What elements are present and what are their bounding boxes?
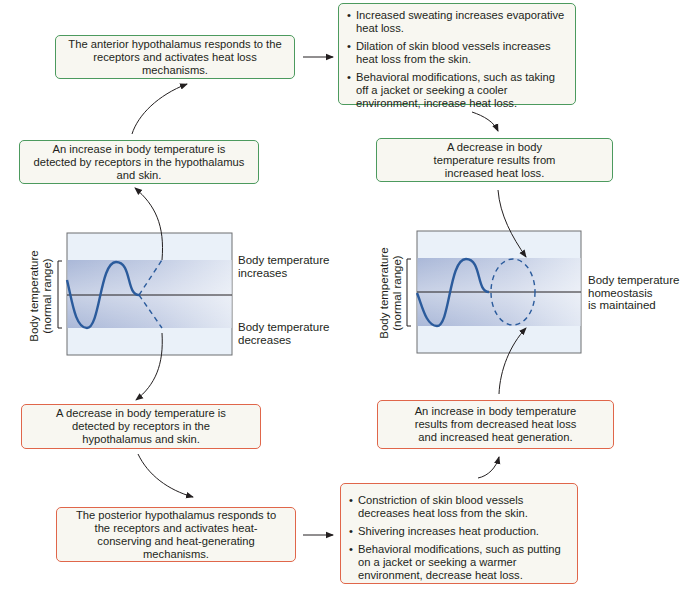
detect-decrease-box: A decrease in body temperature is detect… bbox=[21, 404, 261, 449]
flow-arrows bbox=[132, 57, 526, 535]
heat-loss-mechanisms-box: Increased sweating increases evaporative… bbox=[338, 3, 576, 105]
result-increase-box: An increase in body temperature results … bbox=[377, 400, 614, 449]
right-temperature-graph bbox=[407, 231, 581, 353]
detect-decrease-text: A decrease in body temperature is detect… bbox=[36, 407, 246, 446]
arrow-result-to-right-graph bbox=[499, 328, 526, 394]
arrow-detect-to-posterior bbox=[138, 454, 193, 497]
y-axis-label-line1: Body temperature bbox=[28, 246, 41, 346]
detect-increase-box: An increase in body temperature is detec… bbox=[19, 140, 259, 184]
result-decrease-box: A decrease in body temperature results f… bbox=[376, 138, 613, 182]
left-graph-y-axis-label: Body temperature (normal range) bbox=[28, 246, 54, 346]
label-decrease-line1: Body temperature bbox=[238, 321, 329, 334]
heat-loss-mechanism-item: Behavioral modifications, such as taking… bbox=[347, 71, 567, 110]
posterior-response-text: The posterior hypothalamus responds to t… bbox=[71, 509, 281, 561]
anterior-response-text: The anterior hypothalamus responds to th… bbox=[66, 38, 284, 77]
label-temperature-increases: Body temperature increases bbox=[238, 254, 329, 279]
posterior-hypothalamus-box: The posterior hypothalamus responds to t… bbox=[56, 507, 296, 562]
right-graph-y-axis-label: Body temperature (normal range) bbox=[378, 243, 404, 343]
heat-loss-mechanism-item: Increased sweating increases evaporative… bbox=[347, 9, 567, 35]
arrow-detect-to-anterior bbox=[132, 84, 187, 134]
y-axis-label-line2: (normal range) bbox=[391, 243, 404, 343]
heat-loss-mechanism-item: Dilation of skin blood vessels increases… bbox=[347, 40, 567, 66]
heat-conserve-mechanism-item: Shivering increases heat production. bbox=[349, 525, 569, 538]
arrow-graph-to-detect-increase bbox=[135, 188, 163, 260]
heat-loss-mechanisms-list: Increased sweating increases evaporative… bbox=[347, 9, 567, 110]
label-homeostasis-line2: homeostasis bbox=[588, 287, 679, 300]
label-temperature-decreases: Body temperature decreases bbox=[238, 321, 329, 346]
arrow-heat-loss-to-result bbox=[472, 112, 498, 131]
label-increase-line1: Body temperature bbox=[238, 254, 329, 267]
heat-conserve-mechanism-item: Constriction of skin blood vessels decre… bbox=[349, 494, 569, 520]
detect-increase-text: An increase in body temperature is detec… bbox=[30, 143, 248, 182]
label-decrease-line2: decreases bbox=[238, 334, 329, 347]
label-homeostasis-maintained: Body temperature homeostasis is maintain… bbox=[588, 274, 679, 312]
arrow-heat-conserve-to-result bbox=[478, 457, 499, 478]
heat-conserve-mechanisms-box: Constriction of skin blood vessels decre… bbox=[340, 483, 578, 584]
anterior-hypothalamus-box: The anterior hypothalamus responds to th… bbox=[55, 35, 295, 79]
y-axis-label-line1: Body temperature bbox=[378, 243, 391, 343]
y-axis-label-line2: (normal range) bbox=[41, 246, 54, 346]
label-homeostasis-line3: is maintained bbox=[588, 299, 679, 312]
left-temperature-graph bbox=[58, 233, 232, 355]
heat-conserve-mechanism-item: Behavioral modifications, such as puttin… bbox=[349, 543, 569, 582]
result-increase-text: An increase in body temperature results … bbox=[408, 405, 583, 444]
heat-conserve-mechanisms-list: Constriction of skin blood vessels decre… bbox=[349, 494, 569, 582]
result-decrease-text: A decrease in body temperature results f… bbox=[417, 141, 572, 180]
arrow-result-to-graph bbox=[498, 190, 526, 257]
label-homeostasis-line1: Body temperature bbox=[588, 274, 679, 287]
label-increase-line2: increases bbox=[238, 267, 329, 280]
arrow-graph-to-detect-decrease bbox=[136, 333, 162, 400]
